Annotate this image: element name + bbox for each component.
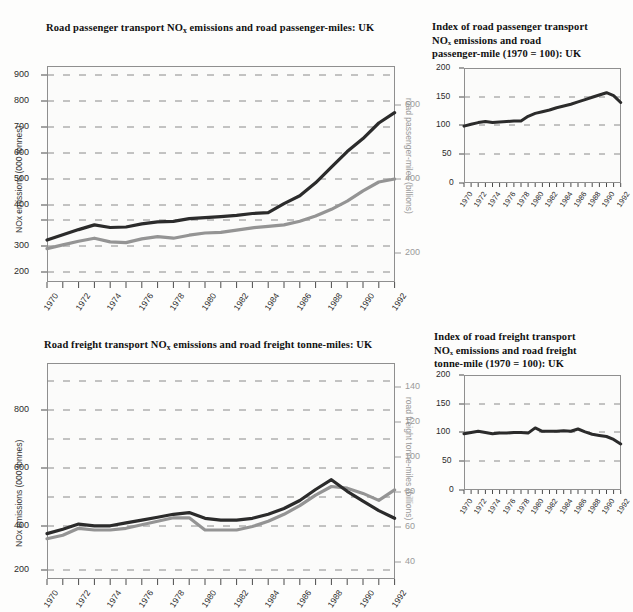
chart-4-ytick-100: 100 <box>436 426 450 436</box>
chart-2-ytick-0: 0 <box>449 177 454 187</box>
chart-4-graphics <box>424 328 633 568</box>
chart-1-xtick-1980: 1980 <box>192 291 218 323</box>
chart-3-left-ticks <box>41 410 47 570</box>
chart-3-ytick-200: 200 <box>14 564 29 574</box>
chart-1-ytick-800: 800 <box>14 95 29 105</box>
chart-1-ytick-900: 900 <box>14 69 29 79</box>
chart-4-series-index <box>464 428 621 444</box>
chart-3-graphics <box>0 335 420 607</box>
chart-3-ytick-right-60: 60 <box>405 521 415 531</box>
chart-panel-index-road-freight: Index of road freight transport NOₓ emis… <box>424 328 633 568</box>
chart-4-xticks <box>464 490 621 494</box>
chart-1-xticks <box>47 282 395 288</box>
chart-1-ytick-right-400: 400 <box>405 173 420 183</box>
chart-1-xtick-1988: 1988 <box>318 291 344 323</box>
chart-2-ytick-200: 200 <box>436 62 450 72</box>
chart-3-gridlines <box>47 381 395 570</box>
chart-3-ytick-800: 800 <box>14 404 29 414</box>
chart-3-ytick-600: 600 <box>14 462 29 472</box>
chart-1-xtick-1982: 1982 <box>224 291 250 323</box>
chart-2-series-index <box>464 93 621 126</box>
chart-1-ytick-400: 400 <box>14 199 29 209</box>
chart-3-ytick-right-120: 120 <box>405 416 420 426</box>
chart-3-series-activity <box>47 487 395 539</box>
chart-3-right-ticks <box>395 387 401 562</box>
chart-1-xtick-1978: 1978 <box>160 291 186 323</box>
chart-1-ytick-right-600: 600 <box>405 99 420 109</box>
chart-1-gridlines <box>47 75 395 272</box>
chart-4-ytick-200: 200 <box>436 369 450 379</box>
chart-3-ytick-right-80: 80 <box>405 486 415 496</box>
chart-4-ytick-150: 150 <box>436 398 450 408</box>
chart-2-graphics <box>424 18 633 273</box>
chart-1-xtick-1974: 1974 <box>97 291 123 323</box>
chart-2-gridlines <box>464 97 621 154</box>
chart-3-ytick-right-100: 100 <box>405 451 420 461</box>
chart-4-ytick-0: 0 <box>449 484 454 494</box>
chart-1-left-ticks <box>41 75 47 272</box>
chart-3-series-emissions <box>47 480 395 534</box>
chart-3-ytick-right-140: 140 <box>405 381 420 391</box>
chart-1-series-emissions <box>47 113 395 240</box>
chart-1-ytick-right-200: 200 <box>405 247 420 257</box>
chart-panel-road-passenger: Road passenger transport NOx emissions a… <box>0 18 420 293</box>
chart-1-xtick-1976: 1976 <box>129 291 155 323</box>
chart-panel-index-road-passenger: Index of road passenger transport NOₓ em… <box>424 18 633 273</box>
chart-1-xtick-1970: 1970 <box>34 291 60 323</box>
chart-4-ytick-50: 50 <box>442 455 451 465</box>
chart-2-ytick-100: 100 <box>436 119 450 129</box>
chart-1-ytick-300: 300 <box>14 240 29 250</box>
chart-1-ytick-600: 600 <box>14 147 29 157</box>
chart-1-graphics <box>0 18 420 293</box>
chart-2-ytick-150: 150 <box>436 91 450 101</box>
chart-3-ytick-right-40: 40 <box>405 556 415 566</box>
chart-1-xtick-1984: 1984 <box>255 291 281 323</box>
chart-1-xtick-1972: 1972 <box>66 291 92 323</box>
chart-1-ytick-700: 700 <box>14 121 29 131</box>
chart-1-xtick-1990: 1990 <box>350 291 376 323</box>
chart-1-series-activity <box>47 179 395 249</box>
chart-panel-road-freight: Road freight transport NOx emissions and… <box>0 335 420 607</box>
chart-1-xtick-1986: 1986 <box>287 291 313 323</box>
chart-1-ytick-500: 500 <box>14 173 29 183</box>
chart-3-ytick-400: 400 <box>14 520 29 530</box>
chart-2-ytick-50: 50 <box>442 148 451 158</box>
chart-1-ytick-200: 200 <box>14 266 29 276</box>
chart-1-xtick-1992: 1992 <box>382 291 408 323</box>
chart-3-xticks <box>47 579 395 585</box>
chart-2-xticks <box>464 183 621 187</box>
